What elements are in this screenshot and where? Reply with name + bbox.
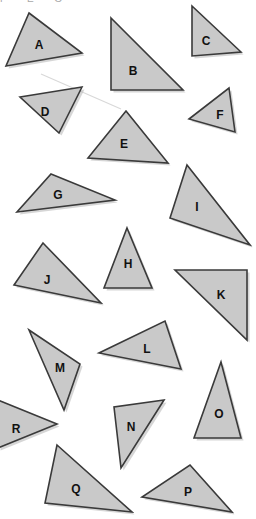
triangle-r[interactable] bbox=[0, 400, 57, 448]
worksheet-page: F E G ABCDEFGHIJKLMNOPQR bbox=[0, 0, 256, 519]
triangle-p-label: P bbox=[184, 485, 192, 499]
triangle-j[interactable] bbox=[14, 243, 101, 303]
triangle-j-label: J bbox=[44, 273, 51, 287]
triangle-d-label: D bbox=[41, 105, 50, 119]
triangle-l-label: L bbox=[143, 342, 150, 356]
triangle-f-label: F bbox=[216, 108, 223, 122]
triangle-c-label: C bbox=[202, 34, 211, 48]
triangle-e-label: E bbox=[120, 137, 128, 151]
triangle-k-label: K bbox=[217, 288, 226, 302]
triangle-a-label: A bbox=[35, 38, 44, 52]
triangle-n-label: N bbox=[127, 420, 136, 434]
triangle-n[interactable] bbox=[114, 400, 164, 468]
triangle-h-label: H bbox=[124, 257, 133, 271]
triangle-o-label: O bbox=[214, 407, 223, 421]
triangle-m-label: M bbox=[55, 361, 65, 375]
triangle-g-label: G bbox=[53, 188, 62, 202]
triangle-b-label: B bbox=[129, 64, 138, 78]
triangle-canvas: ABCDEFGHIJKLMNOPQR bbox=[0, 0, 256, 519]
triangle-r-label: R bbox=[12, 422, 21, 436]
triangle-i-label: I bbox=[195, 200, 198, 214]
triangle-b[interactable] bbox=[111, 18, 183, 90]
triangle-a[interactable] bbox=[6, 13, 82, 66]
triangle-g[interactable] bbox=[17, 174, 115, 212]
triangle-q-label: Q bbox=[71, 482, 80, 496]
triangle-f[interactable] bbox=[189, 88, 235, 132]
triangle-c[interactable] bbox=[192, 6, 241, 56]
triangle-k[interactable] bbox=[175, 270, 247, 340]
triangle-o[interactable] bbox=[194, 362, 241, 438]
